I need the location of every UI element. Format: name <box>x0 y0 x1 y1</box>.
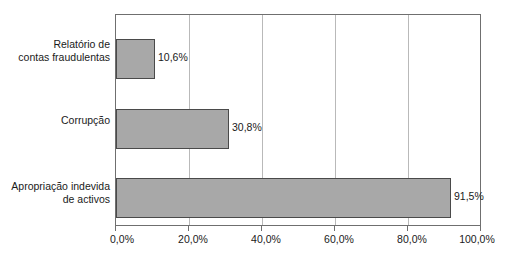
tick-mark-80 <box>407 226 408 231</box>
category-label-1: Corrupção <box>0 114 110 127</box>
xtick-label-60: 60,0% <box>324 234 354 245</box>
tick-mark-40 <box>261 226 262 231</box>
data-label-2: 91,5% <box>454 191 484 202</box>
bar-corrupcao <box>116 109 229 149</box>
category-label-2: Apropriação indevida de activos <box>0 180 110 205</box>
xtick-label-20: 20,0% <box>178 234 208 245</box>
xtick-label-40: 40,0% <box>251 234 281 245</box>
data-label-1: 30,8% <box>232 122 262 133</box>
tick-mark-20 <box>188 226 189 231</box>
bar-apropriacao-indevida-de-activos <box>116 178 451 218</box>
bar-relatorio-de-contas-fraudulentas <box>116 39 155 79</box>
plot-area <box>115 14 481 226</box>
tick-mark-60 <box>334 226 335 231</box>
xtick-label-0: 0,0% <box>110 234 134 245</box>
tick-mark-0 <box>115 226 116 231</box>
category-label-0: Relatório de contas fraudulentas <box>0 38 110 63</box>
tick-mark-100 <box>480 226 481 231</box>
bar-chart: Relatório de contas fraudulentas Corrupç… <box>0 0 510 258</box>
xtick-label-100: 100,0% <box>459 234 495 245</box>
xtick-label-80: 80,0% <box>397 234 427 245</box>
data-label-0: 10,6% <box>158 52 188 63</box>
